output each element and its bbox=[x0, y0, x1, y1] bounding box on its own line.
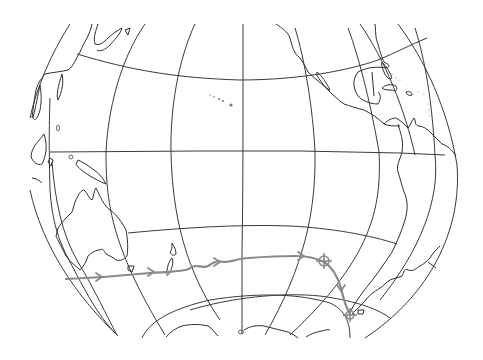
hawaiian-islands bbox=[209, 94, 232, 106]
new-zealand-north bbox=[170, 243, 176, 255]
new-guinea bbox=[76, 160, 106, 184]
globe-map bbox=[0, 0, 483, 360]
tierra-del-fuego bbox=[358, 310, 364, 314]
philippines bbox=[31, 134, 46, 165]
antarctica-central bbox=[244, 326, 298, 338]
central-america bbox=[384, 118, 456, 156]
antarctica-peninsula bbox=[306, 330, 330, 337]
north-america-west-coast bbox=[276, 24, 400, 126]
yucatan bbox=[372, 72, 374, 96]
japan bbox=[94, 24, 122, 51]
australia bbox=[56, 188, 128, 270]
hispaniola bbox=[406, 92, 412, 96]
south-america-east-coast bbox=[352, 246, 440, 314]
antarctica-west bbox=[166, 325, 218, 338]
waypoint-marker-cape-horn bbox=[343, 308, 357, 322]
